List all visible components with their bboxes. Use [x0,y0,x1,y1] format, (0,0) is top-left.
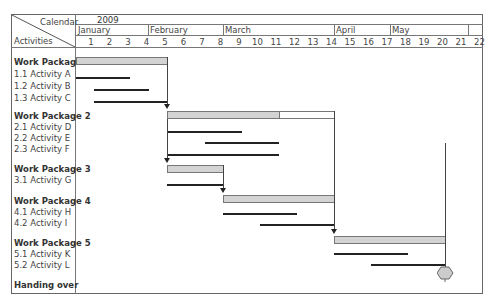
activity-bar [167,154,279,156]
month-divider [390,24,391,35]
label-column-divider [75,14,76,294]
calendar-label: Calendar [40,17,78,27]
activity-label: 3.1 Activity G [14,175,71,185]
work-package-bar [334,236,446,244]
week-13: 13 [305,37,321,47]
header-bottom-divider [11,47,483,48]
month-may: May [392,25,410,35]
activity-bar [76,77,130,79]
work-package-label: Work Package 2 [14,111,91,121]
week-3: 3 [120,37,136,47]
week-2: 2 [102,37,118,47]
dependency-line-wp1-wp2 [167,57,168,105]
month-january: January [78,25,110,35]
month-february: February [150,25,188,35]
month-divider [468,24,469,35]
month-divider [148,24,149,35]
activity-bar [371,264,445,266]
progress-divider [279,111,280,119]
week-19: 19 [416,37,432,47]
activity-bar [223,213,297,215]
work-package-bar [167,165,224,173]
work-package-bar [76,57,168,65]
dependency-line-wp2-wp3 [167,119,168,159]
milestone-handing-over-icon [437,266,454,282]
activity-bar [205,142,279,144]
month-divider [334,24,335,35]
activity-label: 4.2 Activity I [14,218,67,228]
activity-bar [334,253,408,255]
activity-label: 1.2 Activity B [14,81,71,91]
week-7: 7 [194,37,210,47]
milestone-label: Handing over [14,280,78,290]
activity-label: 2.1 Activity D [14,122,71,132]
activity-bar [167,184,223,186]
activity-bar [260,224,334,226]
week-14: 14 [324,37,340,47]
work-package-bar [167,111,335,119]
week-17: 17 [379,37,395,47]
week-10: 10 [250,37,266,47]
month-divider [223,24,224,35]
week-9: 9 [231,37,247,47]
activity-bar [94,89,149,91]
week-20: 20 [435,37,451,47]
activity-bar [94,101,167,103]
work-package-bar [223,195,335,203]
work-package-label: Work Package 3 [14,164,91,174]
week-11: 11 [268,37,284,47]
week-8: 8 [213,37,229,47]
week-15: 15 [342,37,358,47]
activity-bar [167,131,242,133]
week-18: 18 [398,37,414,47]
week-16: 16 [361,37,377,47]
dependency-line-wp3-wp4 [223,165,224,189]
week-12: 12 [287,37,303,47]
year-label: 2009 [97,15,119,25]
activity-label: 1.1 Activity A [14,69,71,79]
activities-label: Activities [14,36,53,46]
month-april: April [336,25,355,35]
work-package-label: Work Package 5 [14,238,91,248]
week-1: 1 [83,37,99,47]
year-row-divider [76,24,483,25]
week-4: 4 [139,37,155,47]
activity-label: 1.3 Activity C [14,93,71,103]
week-5: 5 [157,37,173,47]
dependency-arrow-wp2 [164,104,170,109]
week-6: 6 [176,37,192,47]
dependency-line-wp5-handover [445,143,446,267]
month-march: March [225,25,251,35]
month-row-divider [76,35,483,36]
activity-label: 5.1 Activity K [14,249,70,259]
dependency-arrow-wp3 [164,158,170,163]
week-22: 22 [472,37,488,47]
dependency-arrow-wp4 [220,188,226,193]
dependency-arrow-wp5 [331,229,337,234]
activity-label: 4.1 Activity H [14,207,71,217]
activity-label: 5.2 Activity L [14,260,69,270]
dependency-line-wp4-wp5 [334,111,335,230]
activity-label: 2.2 Activity E [14,133,70,143]
week-21: 21 [453,37,469,47]
work-package-label: Work Package 4 [14,196,91,206]
activity-label: 2.3 Activity F [14,144,70,154]
